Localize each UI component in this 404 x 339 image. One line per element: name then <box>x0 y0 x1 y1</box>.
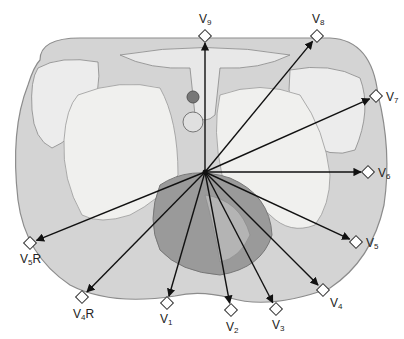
lead-label-v5r: V5R <box>20 253 41 267</box>
thorax-cross-section <box>0 0 404 339</box>
lead-label-v4r: V4R <box>73 308 94 322</box>
vertebra <box>183 112 203 132</box>
lead-label-v9: V9 <box>199 13 211 27</box>
lead-label-v8: V8 <box>312 13 324 27</box>
electrode-v2-icon <box>225 304 238 317</box>
lead-label-v1: V1 <box>160 313 172 327</box>
lead-label-v4: V4 <box>330 297 342 311</box>
origin-point <box>203 170 208 175</box>
aorta <box>187 91 199 103</box>
lead-label-v6: V6 <box>378 167 390 181</box>
electrode-v1-icon <box>161 297 174 310</box>
lead-label-v7: V7 <box>386 91 398 105</box>
lead-label-v2: V2 <box>226 321 238 335</box>
lead-label-v5: V5 <box>366 237 378 251</box>
electrode-v3-icon <box>270 303 283 316</box>
lead-label-v3: V3 <box>272 319 284 333</box>
